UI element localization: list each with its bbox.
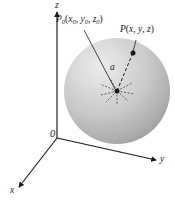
- label-point-p0: P0(x0, y0, z0): [56, 15, 103, 25]
- label-axis-y: y: [160, 155, 164, 165]
- axis-x-line: [19, 138, 57, 187]
- center-point-dot: [115, 89, 120, 94]
- label-origin: 0: [50, 129, 55, 140]
- label-point-p: P(x, y, z): [120, 25, 154, 35]
- label-radius-a: a: [110, 63, 115, 73]
- figure-canvas: P0(x0, y0, z0) P(x, y, z) a z y x 0: [0, 0, 175, 204]
- surface-point-dot: [131, 51, 136, 56]
- label-axis-z: z: [55, 1, 59, 11]
- label-axis-x: x: [10, 186, 14, 196]
